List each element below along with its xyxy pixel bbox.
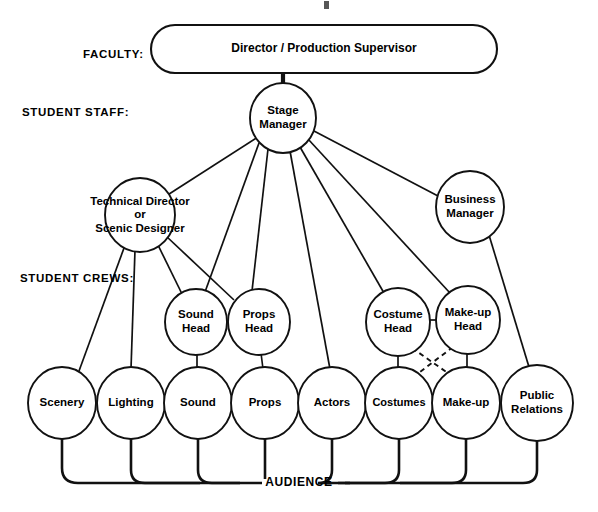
node-label-director: Director / Production Supervisor — [231, 41, 417, 55]
node-label-props: Props — [249, 396, 282, 408]
node-public-relations[interactable]: PublicRelations — [501, 365, 573, 441]
node-label-scenery: Scenery — [40, 396, 85, 408]
audience-link-makeup-to-audience — [400, 437, 466, 483]
node-lighting[interactable]: Lighting — [97, 367, 165, 439]
edge-stage-manager-to-business-manager — [314, 131, 438, 196]
node-business-manager[interactable]: BusinessManager — [436, 171, 504, 243]
node-label-props-head: Props — [243, 308, 276, 320]
node-label-stage-manager: Stage — [267, 104, 298, 116]
rank-label-faculty: FACULTY: — [83, 48, 144, 60]
edge-stage-manager-to-makeup-head — [308, 139, 450, 293]
node-label-technical-director: Scenic Designer — [95, 222, 185, 234]
edge-stage-manager-to-technical-director — [166, 137, 258, 196]
node-label-lighting: Lighting — [108, 396, 153, 408]
node-label-props-head: Head — [245, 322, 273, 334]
node-label-business-manager: Business — [444, 193, 495, 205]
node-label-costume-head: Costume — [373, 308, 422, 320]
audience-link-scenery-to-audience — [62, 437, 160, 483]
audience-label: AUDIENCE — [265, 475, 332, 489]
node-label-technical-director: Technical Director — [90, 195, 190, 207]
node-label-actors: Actors — [314, 396, 350, 408]
node-stage-manager[interactable]: StageManager — [250, 83, 316, 153]
node-label-sound-head: Head — [182, 322, 210, 334]
audience-link-sound-to-audience — [198, 437, 240, 483]
node-label-public-relations: Public — [520, 389, 555, 401]
edge-technical-director-to-sound-head — [157, 243, 183, 296]
node-sound[interactable]: Sound — [164, 367, 232, 439]
edge-technical-director-to-lighting — [131, 250, 135, 369]
audience-link-costumes-to-audience — [345, 437, 399, 483]
node-label-costume-head: Head — [384, 322, 412, 334]
node-label-technical-director: or — [134, 208, 146, 220]
org-chart-root: Director / Production SupervisorStageMan… — [0, 0, 598, 512]
node-scenery[interactable]: Scenery — [28, 367, 96, 439]
node-label-makeup-head: Head — [454, 320, 482, 332]
nodes-layer: Director / Production SupervisorStageMan… — [28, 25, 573, 441]
node-makeup[interactable]: Make-up — [432, 367, 500, 439]
node-props-head[interactable]: PropsHead — [228, 289, 290, 355]
node-label-makeup: Make-up — [443, 396, 490, 408]
org-chart-canvas: Director / Production SupervisorStageMan… — [0, 0, 598, 512]
edge-technical-director-to-scenery — [79, 248, 124, 371]
rank-label-student-staff: STUDENT STAFF: — [22, 106, 129, 118]
node-label-business-manager: Manager — [446, 207, 494, 219]
node-label-public-relations: Relations — [511, 403, 563, 415]
node-costume-head[interactable]: CostumeHead — [366, 288, 430, 356]
edge-stage-manager-to-props-head — [252, 149, 268, 291]
node-makeup-head[interactable]: Make-upHead — [436, 286, 500, 354]
node-props[interactable]: Props — [231, 367, 299, 439]
node-label-sound: Sound — [180, 396, 216, 408]
audience-link-public-relations-to-audience — [470, 439, 537, 483]
node-label-sound-head: Sound — [178, 308, 214, 320]
audience-link-lighting-to-audience — [131, 437, 200, 483]
node-costumes[interactable]: Costumes — [365, 367, 433, 439]
audience-label-layer: AUDIENCE — [265, 475, 332, 489]
node-label-stage-manager: Manager — [259, 118, 307, 130]
node-sound-head[interactable]: SoundHead — [165, 289, 227, 355]
node-label-makeup-head: Make-up — [445, 306, 492, 318]
node-director[interactable]: Director / Production Supervisor — [151, 25, 497, 73]
node-label-costumes: Costumes — [372, 396, 425, 408]
edge-stage-manager-to-actors — [290, 151, 330, 369]
node-actors[interactable]: Actors — [298, 367, 366, 439]
rank-label-student-crews: STUDENT CREWS: — [20, 272, 134, 284]
